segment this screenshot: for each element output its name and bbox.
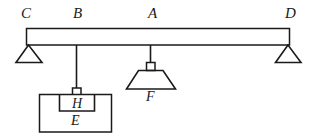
lever-diagram-figure: C B A D F H E bbox=[0, 0, 318, 140]
left-support-triangle bbox=[16, 45, 42, 63]
label-container-e: E bbox=[71, 114, 80, 128]
label-weight-f: F bbox=[146, 90, 155, 104]
label-point-c: C bbox=[21, 6, 31, 21]
hanger-connector-a bbox=[147, 63, 156, 71]
label-point-a: A bbox=[148, 6, 157, 21]
right-support-triangle bbox=[276, 45, 302, 63]
beam-bar bbox=[27, 29, 290, 46]
label-block-h: H bbox=[72, 97, 82, 111]
label-point-b: B bbox=[73, 6, 82, 21]
weight-f-trapezoid bbox=[127, 71, 176, 90]
label-point-d: D bbox=[285, 6, 296, 21]
diagram-canvas bbox=[0, 0, 318, 140]
